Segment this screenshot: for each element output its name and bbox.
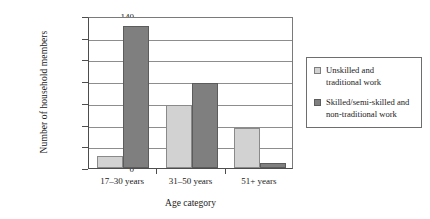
bar [192, 83, 218, 168]
legend-label-unskilled-line2: traditional work [326, 77, 381, 87]
plot-area [88, 17, 293, 169]
legend-label-skilled-line2: non-traditional work [326, 109, 397, 119]
bar-chart-figure: Number of household members 020406080100… [0, 0, 430, 219]
legend-swatch-icon-skilled [314, 99, 321, 106]
bar [260, 163, 286, 168]
y-tick-mark [82, 169, 88, 170]
legend: Unskilled and traditional work Skilled/s… [306, 57, 422, 128]
legend-item-skilled: Skilled/semi-skilled and non-traditional… [314, 97, 415, 120]
legend-label-skilled: Skilled/semi-skilled and non-traditional… [326, 97, 409, 120]
bar [166, 105, 192, 168]
x-axis-title: Age category [88, 198, 293, 208]
bar [97, 156, 123, 168]
legend-label-skilled-line1: Skilled/semi-skilled and [326, 97, 409, 107]
legend-item-unskilled: Unskilled and traditional work [314, 65, 415, 88]
bar [234, 128, 260, 168]
bar [123, 26, 149, 168]
legend-label-unskilled-line1: Unskilled and [326, 65, 374, 75]
y-axis-title: Number of household members [39, 7, 49, 177]
x-tick-mark [156, 169, 157, 174]
x-tick-mark [225, 169, 226, 174]
legend-swatch-icon-unskilled [314, 67, 321, 74]
bars-layer [89, 18, 292, 168]
legend-label-unskilled: Unskilled and traditional work [326, 65, 381, 88]
x-tick-label: 51+ years [214, 176, 304, 186]
